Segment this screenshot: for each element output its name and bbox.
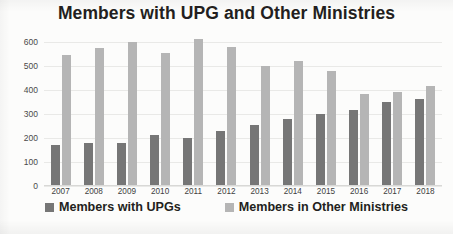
bar-groups bbox=[44, 42, 442, 186]
bar bbox=[426, 86, 435, 186]
y-axis-tick-label: 100 bbox=[24, 157, 38, 167]
legend-item: Members with UPGs bbox=[45, 200, 181, 214]
y-axis-tick-label: 0 bbox=[33, 181, 38, 191]
bar bbox=[194, 39, 203, 186]
x-axis-tick-label: 2010 bbox=[144, 187, 177, 196]
bar bbox=[250, 125, 259, 186]
bar bbox=[393, 92, 402, 186]
x-axis-tick-label: 2011 bbox=[177, 187, 210, 196]
bar bbox=[150, 135, 159, 186]
bar-group bbox=[210, 42, 243, 186]
bar-group bbox=[376, 42, 409, 186]
bar-group bbox=[144, 42, 177, 186]
axis-baseline bbox=[44, 185, 442, 186]
y-axis-tick-label: 400 bbox=[24, 85, 38, 95]
bar bbox=[349, 110, 358, 186]
x-axis-tick-label: 2014 bbox=[276, 187, 309, 196]
bar-group bbox=[177, 42, 210, 186]
y-axis-tick-label: 500 bbox=[24, 61, 38, 71]
bar bbox=[294, 61, 303, 186]
bar bbox=[216, 131, 225, 186]
bar-group bbox=[243, 42, 276, 186]
legend-label: Members with UPGs bbox=[59, 200, 181, 214]
bar-group bbox=[409, 42, 442, 186]
bar bbox=[183, 138, 192, 186]
legend-label: Members in Other Ministries bbox=[239, 200, 408, 214]
bar bbox=[51, 145, 60, 186]
legend-item: Members in Other Ministries bbox=[225, 200, 408, 214]
plot-area: 0100200300400500600 bbox=[44, 42, 442, 186]
y-axis-tick-label: 200 bbox=[24, 133, 38, 143]
bar bbox=[360, 94, 369, 186]
x-axis-tick-label: 2015 bbox=[309, 187, 342, 196]
bar bbox=[283, 119, 292, 186]
bar-group bbox=[77, 42, 110, 186]
legend-swatch-icon bbox=[225, 203, 234, 212]
chart-legend: Members with UPGsMembers in Other Minist… bbox=[0, 200, 453, 214]
bar-group bbox=[343, 42, 376, 186]
bar-group bbox=[276, 42, 309, 186]
bar bbox=[117, 143, 126, 186]
x-axis-tick-label: 2012 bbox=[210, 187, 243, 196]
bar bbox=[161, 53, 170, 186]
x-axis-tick-label: 2013 bbox=[243, 187, 276, 196]
chart-title: Members with UPG and Other Ministries bbox=[0, 3, 453, 24]
x-axis-labels: 2007200820092010201120122013201420152016… bbox=[44, 187, 442, 196]
x-axis-tick-label: 2008 bbox=[77, 187, 110, 196]
y-axis-tick-label: 300 bbox=[24, 109, 38, 119]
bar-chart: Members with UPG and Other Ministries 01… bbox=[0, 0, 453, 234]
bar bbox=[95, 48, 104, 186]
x-axis-tick-label: 2007 bbox=[44, 187, 77, 196]
bar bbox=[84, 143, 93, 186]
bar bbox=[415, 99, 424, 186]
legend-swatch-icon bbox=[45, 203, 54, 212]
bar bbox=[316, 114, 325, 186]
bar-group bbox=[110, 42, 143, 186]
bar bbox=[261, 66, 270, 186]
bar-group bbox=[309, 42, 342, 186]
x-axis-tick-label: 2018 bbox=[409, 187, 442, 196]
bar bbox=[227, 47, 236, 186]
y-axis-tick-label: 600 bbox=[24, 37, 38, 47]
bar bbox=[327, 71, 336, 186]
x-axis-tick-label: 2009 bbox=[110, 187, 143, 196]
x-axis-tick-label: 2016 bbox=[343, 187, 376, 196]
x-axis-tick-label: 2017 bbox=[376, 187, 409, 196]
bar bbox=[62, 55, 71, 186]
bar bbox=[382, 102, 391, 186]
bar bbox=[128, 42, 137, 186]
bar-group bbox=[44, 42, 77, 186]
